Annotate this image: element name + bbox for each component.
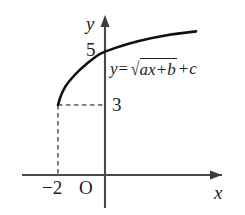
radicand: a x + b [140,58,177,80]
equation-outside-plus-sign: + [178,59,190,79]
y-tick-label-5: 5 [86,40,96,59]
origin-label: O [79,178,93,197]
radicand-coefficient-a: a [140,60,149,80]
radicand-plus-sign: + [156,60,168,80]
x-axis-arrowhead [210,171,222,180]
math-figure: y x 5 3 −2 O y = √ a x + b + c [0,0,245,215]
y-axis-arrowhead [101,15,110,27]
radical-group: √ a x + b [130,58,177,80]
equation-constant-c: c [189,59,197,79]
equation-lhs: y [110,59,118,79]
graph-canvas [0,0,245,215]
x-tick-label-neg2: −2 [42,178,62,197]
equation-annotation: y = √ a x + b + c [110,58,197,80]
equation-equals-sign: = [118,59,130,79]
radicand-constant-b: b [167,60,176,80]
y-axis-label: y [86,14,94,33]
dashed-guides [58,105,105,175]
radical-sign-icon: √ [131,59,139,81]
x-axis-label: x [214,183,222,202]
radicand-variable-x: x [148,60,156,80]
y-tick-label-3: 3 [112,95,122,114]
y-axis [101,15,110,208]
